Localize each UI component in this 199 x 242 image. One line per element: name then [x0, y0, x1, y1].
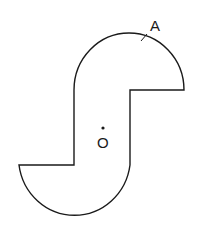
label-a: A: [150, 17, 160, 34]
s-shaped-figure-diagram: A O: [0, 0, 199, 242]
label-o: O: [97, 134, 109, 151]
point-o-dot: [101, 126, 104, 129]
figure-outline: [19, 33, 184, 215]
